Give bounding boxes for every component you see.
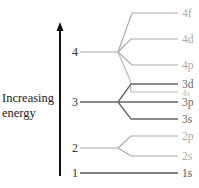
subshell-label-3d: 3d <box>182 78 194 90</box>
shell-label-1: 1 <box>72 166 78 180</box>
subshell-label-4f: 4f <box>182 7 192 19</box>
shell-label-2: 2 <box>72 141 78 155</box>
shell-2-lines <box>80 136 178 156</box>
shell-3-lines <box>80 84 178 119</box>
subshell-label-1s: 1s <box>182 167 193 179</box>
shell-label-3: 3 <box>72 95 78 109</box>
shell-label-4: 4 <box>72 45 78 59</box>
subshell-label-3s: 3s <box>182 113 193 125</box>
energy-level-diagram: 1 2 3 4 1s 2s 2p 3s 3p 4s 3d 4p 4d 4f <box>0 0 199 188</box>
subshell-label-2s: 2s <box>182 150 193 162</box>
subshell-label-4p: 4p <box>182 59 194 72</box>
energy-arrow-icon <box>57 22 64 176</box>
shell-4-lines <box>80 13 178 92</box>
subshell-label-4d: 4d <box>182 33 194 45</box>
subshell-label-2p: 2p <box>182 130 194 143</box>
